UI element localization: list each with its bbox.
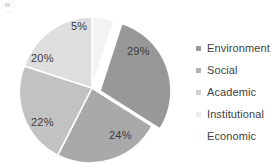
- slice-label-economic: 5%: [71, 21, 87, 32]
- legend-label-economic: Economic: [207, 131, 256, 142]
- legend-item-institutional[interactable]: Institutional: [196, 104, 278, 124]
- slice-label-institutional: 20%: [31, 53, 54, 64]
- slice-label-academic: 22%: [31, 117, 54, 128]
- legend-swatch-icon: [196, 134, 201, 139]
- chart-legend: Environment Social Academic Institutiona…: [196, 38, 278, 148]
- legend-item-economic[interactable]: Economic: [196, 126, 278, 146]
- slice-label-environment: 29%: [127, 46, 150, 57]
- legend-item-academic[interactable]: Academic: [196, 82, 278, 102]
- legend-swatch-icon: [196, 90, 201, 95]
- legend-label-environment: Environment: [207, 43, 270, 54]
- slice-label-social: 24%: [109, 130, 132, 141]
- legend-swatch-icon: [196, 112, 201, 117]
- legend-label-social: Social: [207, 65, 238, 76]
- legend-item-social[interactable]: Social: [196, 60, 278, 80]
- legend-swatch-icon: [196, 46, 201, 51]
- legend-label-academic: Academic: [207, 87, 256, 98]
- pie-chart-plot-area: 5% 29% 24% 22% 20%: [0, 0, 190, 166]
- legend-item-environment[interactable]: Environment: [196, 38, 278, 58]
- legend-swatch-icon: [196, 68, 201, 73]
- legend-label-institutional: Institutional: [207, 109, 264, 120]
- pie-svg: [0, 0, 190, 166]
- pie-chart-figure: 5% 29% 24% 22% 20% Environment Social Ac…: [0, 0, 278, 166]
